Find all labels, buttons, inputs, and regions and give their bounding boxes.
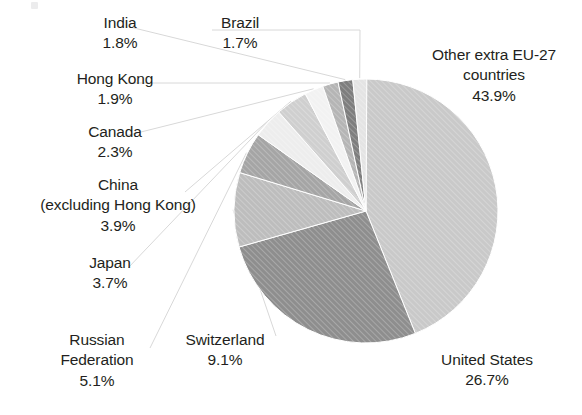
slice-label-india-value: 1.8% — [55, 33, 185, 53]
slice-label-hong-kong: Hong Kong 1.9% — [45, 69, 185, 110]
slice-label-switzerland-value: 9.1% — [155, 350, 295, 370]
slice-label-japan-name: Japan — [45, 253, 175, 273]
slice-label-switzerland-name: Switzerland — [155, 330, 295, 350]
slice-label-brazil: Brazil 1.7% — [185, 13, 295, 54]
slice-label-china-value: 3.9% — [8, 216, 228, 236]
slice-label-switzerland: Switzerland 9.1% — [155, 330, 295, 371]
slice-label-other-eu-name: Other extra EU-27 — [406, 45, 582, 65]
slice-label-united-states: United States 26.7% — [412, 350, 562, 391]
slice-label-canada-name: Canada — [45, 122, 185, 142]
slice-label-india-name: India — [55, 13, 185, 33]
slice-label-india: India 1.8% — [55, 13, 185, 54]
slice-label-russia-name: Russian — [22, 330, 172, 350]
slice-label-japan: Japan 3.7% — [45, 253, 175, 294]
slice-label-other-eu-name2: countries — [406, 65, 582, 85]
slice-label-china: China (excluding Hong Kong) 3.9% — [8, 175, 228, 236]
slice-label-brazil-value: 1.7% — [185, 33, 295, 53]
slice-label-china-qualifier: (excluding Hong Kong) — [8, 195, 228, 215]
slice-label-china-name: China — [8, 175, 228, 195]
slice-label-japan-value: 3.7% — [45, 273, 175, 293]
slice-label-other-extra-eu27: Other extra EU-27 countries 43.9% — [406, 45, 582, 106]
slice-label-russia-name2: Federation — [22, 350, 172, 370]
pie-texture — [234, 79, 498, 343]
slice-label-other-eu-value: 43.9% — [406, 86, 582, 106]
slice-label-russia-value: 5.1% — [22, 371, 172, 391]
slice-label-hong-kong-value: 1.9% — [45, 89, 185, 109]
slice-label-brazil-name: Brazil — [185, 13, 295, 33]
slice-label-usa-name: United States — [412, 350, 562, 370]
chart-canvas: India 1.8% Brazil 1.7% Hong Kong 1.9% Ca… — [0, 0, 582, 415]
slice-label-usa-value: 26.7% — [412, 370, 562, 390]
slice-label-russian-federation: Russian Federation 5.1% — [22, 330, 172, 391]
slice-label-canada: Canada 2.3% — [45, 122, 185, 163]
slice-label-hong-kong-name: Hong Kong — [45, 69, 185, 89]
slice-label-canada-value: 2.3% — [45, 142, 185, 162]
